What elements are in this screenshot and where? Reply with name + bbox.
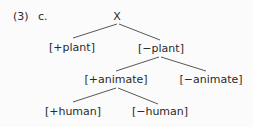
example-sub-label: c. <box>38 11 48 23</box>
edge-minus-plant-plus-animate <box>116 57 159 71</box>
edge-minus-plant-minus-animate <box>161 57 206 71</box>
edge-plus-animate-minus-human <box>118 88 158 104</box>
node-plus-human: [+human] <box>45 106 101 118</box>
node-plus-plant: [+plant] <box>49 42 95 54</box>
edge-plus-animate-plus-human <box>73 88 116 102</box>
edge-x-plus-plant <box>73 24 117 38</box>
node-minus-human: [−human] <box>132 106 188 118</box>
example-number: (3) <box>13 11 29 23</box>
node-minus-animate: [−animate] <box>179 74 242 86</box>
edge-x-minus-plant <box>119 24 160 40</box>
node-plus-animate: [+animate] <box>84 74 147 86</box>
node-minus-plant: [−plant] <box>138 43 184 55</box>
node-root-x: X <box>113 11 121 23</box>
